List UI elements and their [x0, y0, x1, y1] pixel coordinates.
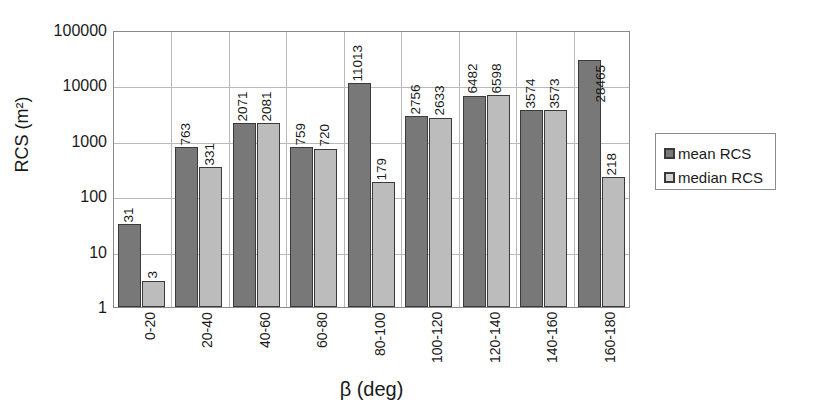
x-axis-tick: 60-80 — [285, 312, 343, 374]
legend: mean RCSmedian RCS — [655, 133, 776, 190]
bar-mean: 759 — [290, 147, 313, 307]
bar-mean: 28465 — [578, 60, 601, 307]
bar-median: 179 — [372, 182, 395, 307]
legend-item: median RCS — [664, 165, 775, 189]
y-axis-tick: 10000 — [35, 79, 107, 93]
bar-median: 218 — [602, 177, 625, 307]
legend-label: median RCS — [678, 169, 763, 186]
x-axis-tick-label: 80-100 — [372, 312, 388, 356]
bar-median: 3 — [142, 281, 165, 307]
bar-mean: 31 — [118, 224, 141, 307]
rcs-bar-chart: RCS (m²) 100000100001000100101 313763331… — [0, 0, 818, 419]
bar-value-label: 28465 — [594, 65, 608, 103]
y-axis-tick-labels: 100000100001000100101 — [33, 0, 107, 419]
x-axis-tick-label: 0-20 — [142, 312, 158, 340]
bar-median: 2633 — [429, 118, 452, 307]
x-axis-title: β (deg) — [113, 378, 630, 401]
bar-value-label: 331 — [202, 143, 216, 166]
x-axis-tick-label: 120-140 — [487, 312, 503, 363]
bar-value-label: 6598 — [490, 63, 504, 93]
x-axis-tick-label: 100-120 — [429, 312, 445, 363]
bar-group: 313 — [114, 30, 171, 307]
y-axis-tick: 1 — [35, 301, 107, 315]
x-axis-tick: 20-40 — [170, 312, 228, 374]
bar-value-label: 763 — [178, 123, 192, 146]
bar-mean: 2071 — [233, 123, 256, 307]
x-axis-tick: 100-120 — [400, 312, 458, 374]
x-axis-tick: 120-140 — [458, 312, 516, 374]
y-axis-tick: 10 — [35, 246, 107, 260]
legend-item: mean RCS — [664, 141, 775, 165]
bar-value-label: 2071 — [236, 91, 250, 121]
bar-mean: 763 — [175, 147, 198, 307]
bar-mean: 11013 — [348, 83, 371, 307]
bar-value-label: 720 — [317, 124, 331, 147]
bar-value-label: 218 — [605, 153, 619, 176]
bar-median: 2081 — [257, 123, 280, 307]
plot-area: 3137633312071208175972011013179275626336… — [113, 31, 630, 308]
x-axis-tick: 40-60 — [228, 312, 286, 374]
bar-value-label: 3573 — [547, 78, 561, 108]
legend-label: mean RCS — [678, 145, 751, 162]
bar-group: 11013179 — [344, 30, 401, 307]
bar-group: 27562633 — [401, 30, 458, 307]
bar-value-label: 2081 — [260, 91, 274, 121]
bar-mean: 6482 — [463, 96, 486, 307]
x-axis-tick-label: 60-80 — [314, 312, 330, 348]
bar-group: 35743573 — [516, 30, 573, 307]
bar-group: 20712081 — [229, 30, 286, 307]
bar-value-label: 31 — [121, 207, 135, 222]
y-axis-tick: 1000 — [35, 135, 107, 149]
y-axis-title: RCS (m²) — [12, 55, 33, 215]
legend-swatch-mean — [664, 148, 675, 159]
bar-value-label: 3 — [145, 271, 159, 279]
bar-value-label: 2633 — [432, 85, 446, 115]
bar-group: 759720 — [286, 30, 343, 307]
x-axis-tick: 0-20 — [113, 312, 171, 374]
x-axis-tick-label: 40-60 — [257, 312, 273, 348]
x-axis-tick: 160-180 — [573, 312, 631, 374]
bar-median: 6598 — [487, 95, 510, 307]
x-axis-tick-label: 160-180 — [602, 312, 618, 363]
legend-swatch-median — [664, 172, 675, 183]
bar-median: 331 — [199, 167, 222, 307]
bar-value-label: 11013 — [351, 45, 365, 82]
x-axis-tick: 80-100 — [343, 312, 401, 374]
bar-group: 28465218 — [574, 30, 631, 307]
bar-group: 763331 — [171, 30, 228, 307]
x-axis-tick-label: 140-160 — [544, 312, 560, 363]
bar-value-label: 3574 — [523, 78, 537, 108]
x-axis-tick-label: 20-40 — [199, 312, 215, 348]
x-axis-tick: 140-160 — [515, 312, 573, 374]
bar-median: 3573 — [544, 110, 567, 307]
bar-mean: 3574 — [520, 110, 543, 307]
y-axis-tick: 100 — [35, 190, 107, 204]
y-axis-tick: 100000 — [35, 24, 107, 38]
bar-value-label: 6482 — [466, 64, 480, 94]
bar-value-label: 2756 — [408, 84, 422, 114]
bar-mean: 2756 — [405, 116, 428, 307]
bar-value-label: 759 — [293, 123, 307, 146]
bar-median: 720 — [314, 149, 337, 307]
bar-value-label: 179 — [375, 158, 389, 181]
bar-group: 64826598 — [459, 30, 516, 307]
